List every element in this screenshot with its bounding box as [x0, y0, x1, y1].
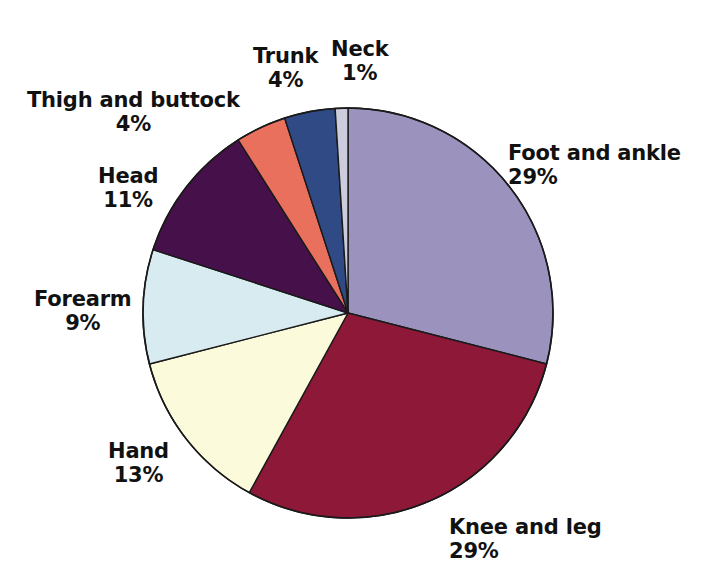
slice-label-name: Forearm [34, 288, 132, 312]
slice-label-name: Trunk [253, 45, 318, 69]
slice-label-value: 29% [449, 540, 602, 564]
slice-label-value: 29% [508, 166, 681, 190]
slice-label-value: 13% [108, 464, 169, 488]
slice-label-forearm: Forearm 9% [34, 288, 132, 335]
slice-label-hand: Hand 13% [108, 440, 169, 487]
slice-label-name: Head [98, 165, 158, 189]
slice-label-value: 1% [331, 62, 388, 86]
slice-label-knee-and-leg: Knee and leg 29% [449, 516, 602, 563]
pie-chart-figure: Foot and ankle 29% Knee and leg 29% Hand… [0, 0, 725, 581]
slice-label-value: 11% [98, 189, 158, 213]
slice-label-head: Head 11% [98, 165, 158, 212]
slice-label-value: 9% [34, 312, 132, 336]
slice-label-thigh-and-buttock: Thigh and buttock 4% [27, 89, 240, 136]
slice-label-neck: Neck 1% [331, 38, 388, 85]
slice-label-name: Knee and leg [449, 516, 602, 540]
slice-label-name: Hand [108, 440, 169, 464]
slice-label-value: 4% [27, 113, 240, 137]
slice-label-name: Foot and ankle [508, 142, 681, 166]
slice-label-value: 4% [253, 69, 318, 93]
slice-label-name: Neck [331, 38, 388, 62]
slice-label-foot-and-ankle: Foot and ankle 29% [508, 142, 681, 189]
slice-label-name: Thigh and buttock [27, 89, 240, 113]
slice-label-trunk: Trunk 4% [253, 45, 318, 92]
